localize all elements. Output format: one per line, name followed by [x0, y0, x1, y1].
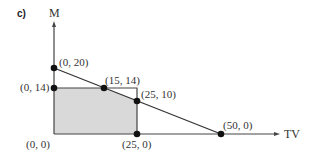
x-axis-label: TV	[284, 127, 300, 141]
y-axis-arrow-icon	[52, 21, 56, 27]
label-50-0: (50, 0)	[223, 119, 253, 132]
label-25-0: (25, 0)	[122, 138, 152, 151]
feasible-region	[54, 88, 137, 134]
point-0-20	[51, 65, 58, 72]
label-0-14: (0, 14)	[20, 81, 50, 94]
y-axis-label: M	[49, 6, 60, 20]
point-25-0	[134, 131, 141, 138]
linear-programming-diagram: c) M TV (0, 20) (0, 14) (15, 14) (25, 10…	[0, 0, 313, 158]
part-label: c)	[17, 8, 26, 19]
label-15-14: (15, 14)	[105, 74, 140, 87]
label-0-0: (0, 0)	[26, 138, 50, 151]
label-0-20: (0, 20)	[59, 56, 89, 69]
point-50-0	[218, 131, 225, 138]
label-25-10: (25, 10)	[141, 88, 176, 101]
point-25-10	[134, 98, 141, 105]
x-axis-arrow-icon	[274, 132, 280, 136]
point-0-14	[51, 85, 58, 92]
